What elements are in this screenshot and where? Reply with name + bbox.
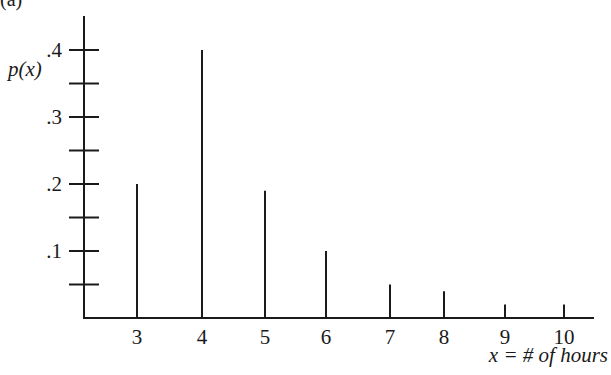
x-axis-label: x = # of hours: [488, 343, 608, 367]
x-tick-label: 8: [439, 325, 450, 349]
x-tick-label: 3: [132, 325, 143, 349]
y-tick-label: .3: [46, 105, 62, 129]
y-tick-label: .2: [46, 172, 62, 196]
y-tick-label: .4: [46, 38, 62, 62]
axes: [83, 16, 594, 318]
data-spikes: [137, 50, 564, 318]
y-axis-label: p(x): [6, 57, 42, 81]
y-tick-label: .1: [46, 239, 62, 263]
x-tick-label: 6: [321, 325, 332, 349]
x-tick-label: 4: [197, 325, 208, 349]
y-axis-ticks: .1.2.3.4: [46, 38, 99, 285]
probability-spike-chart: .1.2.3.4 345678910 p(x) x = # of hours: [0, 0, 611, 375]
x-tick-label: 7: [385, 325, 396, 349]
x-tick-label: 5: [260, 325, 271, 349]
